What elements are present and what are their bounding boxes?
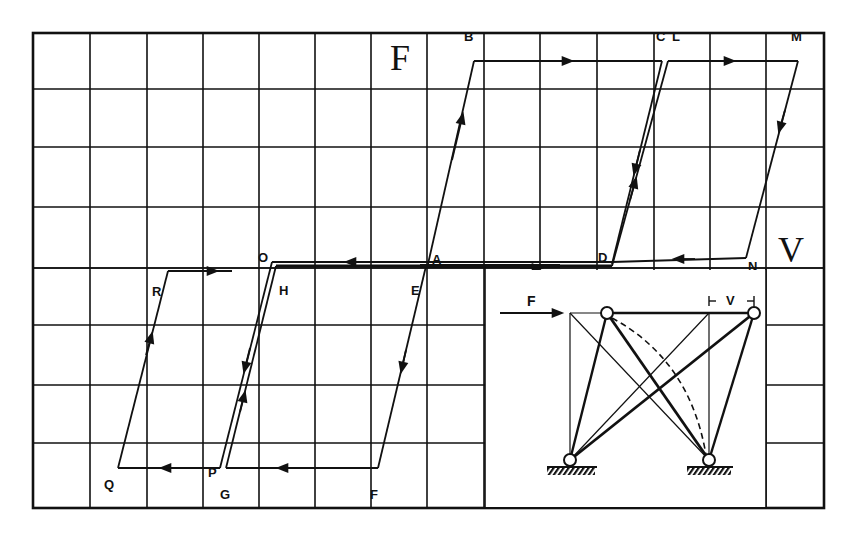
inset-displacement-label: V — [726, 293, 735, 308]
point-label-o: O — [258, 250, 268, 265]
path-i-l — [612, 61, 668, 266]
point-label-p: P — [208, 465, 217, 480]
path-m-n — [746, 61, 798, 258]
point-label-m: M — [791, 29, 802, 44]
path-q-r — [118, 271, 168, 468]
f-axis-label: F — [390, 38, 410, 78]
path-g-h — [226, 266, 276, 468]
joint-top-left — [601, 307, 613, 319]
point-label-l: L — [672, 29, 680, 44]
v-axis-label: V — [778, 230, 804, 270]
point-label-h: H — [279, 283, 288, 298]
point-label-a: A — [432, 252, 442, 267]
hysteresis-figure: ABCDEFGHILMNOPQR F V — [0, 0, 845, 535]
point-label-d: D — [598, 250, 607, 265]
ground-support-right — [687, 467, 731, 475]
inset-force-label: F — [527, 293, 536, 309]
joint-top-right — [748, 307, 760, 319]
ground-support-left — [547, 467, 595, 475]
point-label-f: F — [370, 487, 378, 502]
point-label-e: E — [411, 283, 420, 298]
point-label-c: C — [656, 29, 666, 44]
point-label-q: Q — [104, 477, 114, 492]
point-label-g: G — [220, 487, 230, 502]
joint-support-right — [703, 454, 715, 466]
joint-support-left — [564, 454, 576, 466]
path-a-b — [428, 61, 474, 264]
inset-frame-diagram: F V — [485, 268, 766, 508]
arrow-a-b — [452, 118, 462, 160]
point-label-b: B — [464, 29, 473, 44]
point-label-r: R — [152, 284, 162, 299]
